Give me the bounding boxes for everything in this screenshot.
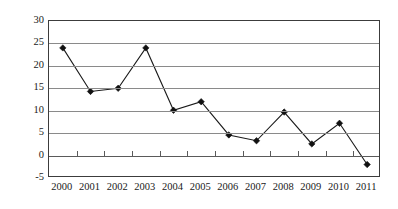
x-axis-tick-mark [132,151,133,156]
x-axis-tick-mark [243,151,244,156]
x-axis-tick-label: 2009 [300,181,321,193]
y-axis-tick-label: 20 [0,60,44,70]
x-axis-tick-mark [270,151,271,156]
x-axis-tick-mark [326,151,327,156]
x-axis-tick-mark [160,151,161,156]
y-axis-tick-labels: 302520151050-5 [0,0,44,209]
x-axis-tick-label: 2002 [107,181,128,193]
x-axis-tick-labels: 2000200120022003200420052006200720082009… [48,181,380,201]
x-axis-tick-label: 2005 [190,181,211,193]
gridline-0 [49,156,379,157]
x-axis-tick-mark [353,151,354,156]
plot-area [48,20,380,177]
x-axis-tick-label: 2004 [162,181,183,193]
y-axis-tick-label: -5 [0,172,44,182]
x-axis-tick-mark [215,151,216,156]
gridline-5 [49,133,379,134]
gridline-10 [49,111,379,112]
x-axis-tick-label: 2003 [134,181,155,193]
gridline-25 [49,43,379,44]
y-axis-tick-label: 5 [0,127,44,137]
y-axis-tick-label: 30 [0,15,44,25]
y-axis-tick-label: 0 [0,150,44,160]
x-axis-tick-mark [104,151,105,156]
data-point-marker [364,161,370,167]
x-axis-tick-mark [298,151,299,156]
x-axis-tick-label: 2001 [79,181,100,193]
x-axis-tick-label: 2008 [273,181,294,193]
line-chart-figure: 302520151050-5 2000200120022003200420052… [0,0,398,209]
x-axis-tick-label: 2010 [328,181,349,193]
x-axis-tick-mark [187,151,188,156]
y-axis-tick-label: 10 [0,105,44,115]
x-axis-tick-label: 2006 [217,181,238,193]
x-axis-tick-label: 2011 [356,181,377,193]
series-marker-group [60,45,371,168]
gridline-20 [49,66,379,67]
x-axis-tick-label: 2007 [245,181,266,193]
y-axis-tick-label: 15 [0,82,44,92]
data-point-marker [143,45,149,51]
x-axis-tick-label: 2000 [51,181,72,193]
y-axis-tick-label: 25 [0,37,44,47]
x-axis-tick-mark [77,151,78,156]
data-point-marker [60,45,66,51]
gridline-15 [49,88,379,89]
